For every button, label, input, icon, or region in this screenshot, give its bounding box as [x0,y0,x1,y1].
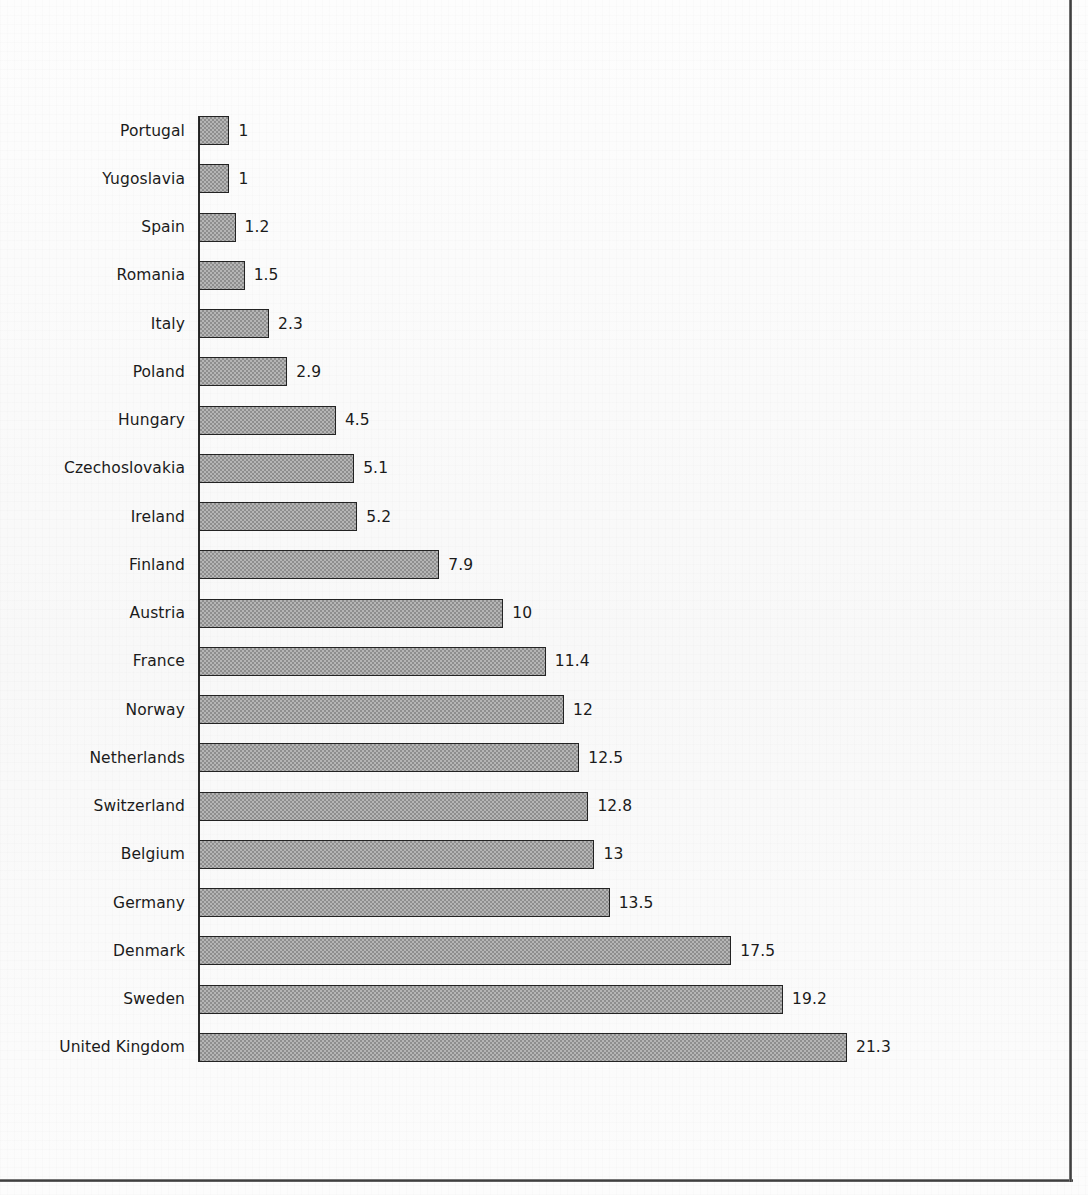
bar-row: Italy2.3 [0,309,1088,338]
category-label: Romania [117,266,185,284]
category-label: United Kingdom [59,1038,185,1056]
category-label: Yugoslavia [102,170,185,188]
bar-row: Hungary4.5 [0,406,1088,435]
bar-row: France11.4 [0,647,1088,676]
bar-row: Sweden19.2 [0,985,1088,1014]
bar-row: Norway12 [0,695,1088,724]
bar-row: Ireland5.2 [0,502,1088,531]
bar [199,1033,847,1062]
bar [199,985,783,1014]
category-label: Portugal [120,122,185,140]
category-label: Belgium [121,845,185,863]
category-label: Netherlands [89,749,185,767]
bar-value-label: 4.5 [345,411,370,429]
bar-row: Denmark17.5 [0,936,1088,965]
category-label: France [133,652,185,670]
bar-value-label: 2.9 [296,363,321,381]
bar-value-label: 1 [238,170,248,188]
bar [199,502,357,531]
horizontal-bar-chart: Portugal1Yugoslavia1Spain1.2Romania1.5It… [0,0,1088,1195]
bar [199,599,503,628]
bar-value-label: 12 [573,701,593,719]
category-label: Hungary [118,411,185,429]
bar [199,116,229,145]
bar [199,743,579,772]
category-axis-line [198,116,200,1062]
bar-row: Portugal1 [0,116,1088,145]
bar [199,840,594,869]
bar-row: Czechoslovakia5.1 [0,454,1088,483]
bar-row: Finland7.9 [0,550,1088,579]
category-label: Sweden [123,990,185,1008]
bar-value-label: 5.1 [363,459,388,477]
bar-value-label: 13.5 [619,894,654,912]
bar [199,792,588,821]
bar [199,213,236,242]
bar [199,647,546,676]
bar-row: Switzerland12.8 [0,792,1088,821]
bar-value-label: 12.8 [597,797,632,815]
bar-value-label: 7.9 [448,556,473,574]
category-label: Germany [113,894,185,912]
bar-row: Germany13.5 [0,888,1088,917]
category-label: Switzerland [93,797,185,815]
bar [199,357,287,386]
bar [199,261,245,290]
category-label: Poland [133,363,185,381]
bar-value-label: 5.2 [366,508,391,526]
bar-row: Poland2.9 [0,357,1088,386]
bar-row: Austria10 [0,599,1088,628]
bar-row: Belgium13 [0,840,1088,869]
category-label: Finland [129,556,185,574]
bar-value-label: 1.5 [254,266,279,284]
bar-value-label: 13 [603,845,623,863]
bar-value-label: 12.5 [588,749,623,767]
bar [199,888,610,917]
bar-value-label: 19.2 [792,990,827,1008]
bar-value-label: 11.4 [555,652,590,670]
bar-value-label: 10 [512,604,532,622]
bar [199,550,439,579]
category-label: Denmark [113,942,185,960]
bar-row: Spain1.2 [0,213,1088,242]
bar [199,695,564,724]
bar-value-label: 17.5 [740,942,775,960]
category-label: Ireland [131,508,185,526]
category-label: Austria [130,604,185,622]
bar-value-label: 21.3 [856,1038,891,1056]
category-label: Czechoslovakia [64,459,185,477]
bar-value-label: 1.2 [245,218,270,236]
bar-value-label: 2.3 [278,315,303,333]
category-label: Norway [126,701,185,719]
page-frame-right-rule [1069,0,1072,1182]
bar-row: United Kingdom21.3 [0,1033,1088,1062]
bar [199,164,229,193]
bar [199,309,269,338]
bar [199,406,336,435]
bar [199,454,354,483]
scanned-page: Portugal1Yugoslavia1Spain1.2Romania1.5It… [0,0,1088,1195]
bar [199,936,731,965]
bar-row: Yugoslavia1 [0,164,1088,193]
bar-row: Netherlands12.5 [0,743,1088,772]
category-label: Italy [151,315,185,333]
bar-row: Romania1.5 [0,261,1088,290]
page-frame-bottom-rule [0,1179,1073,1182]
category-label: Spain [141,218,185,236]
bar-value-label: 1 [238,122,248,140]
